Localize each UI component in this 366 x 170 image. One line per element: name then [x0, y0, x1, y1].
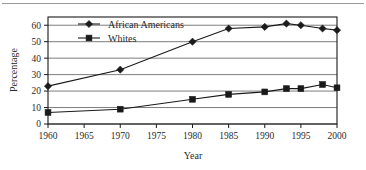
x-tick-label-1995: 1995: [291, 131, 310, 141]
series-line-1: [48, 24, 337, 87]
data-point-1-1990: [261, 23, 268, 30]
chart-figure: 196019651970197519801985199019952000 010…: [0, 0, 366, 170]
data-point-2-1998: [320, 82, 326, 88]
data-point-1-1993: [283, 20, 290, 27]
data-point-1-1995: [297, 22, 304, 29]
y-tick-label-0: 0: [36, 119, 41, 129]
legend-marker-diamond: [85, 20, 92, 27]
data-point-1-1985: [225, 25, 232, 32]
data-point-2-1985: [226, 91, 232, 97]
x-tick-label-1975: 1975: [147, 131, 166, 141]
legend-marker-square: [86, 35, 92, 41]
data-point-1-1998: [319, 25, 326, 32]
data-point-2-1980: [190, 96, 196, 102]
x-axis-tick-group: [48, 124, 337, 128]
x-tick-label-1960: 1960: [39, 131, 58, 141]
y-tick-label-30: 30: [32, 70, 42, 80]
y-tick-label-20: 20: [32, 86, 42, 96]
data-point-2-2000: [334, 85, 340, 91]
y-tick-label-40: 40: [32, 54, 42, 64]
data-point-2-1990: [262, 89, 268, 95]
data-point-1-2000: [333, 27, 340, 34]
y-tick-label-50: 50: [32, 37, 42, 47]
x-axis-tick-labels: 196019651970197519801985199019952000: [39, 131, 347, 141]
y-tick-label-10: 10: [32, 103, 42, 113]
y-axis-title: Percentage: [8, 48, 19, 92]
x-axis-title: Year: [184, 150, 203, 161]
data-point-1-1970: [117, 66, 124, 73]
x-tick-label-1985: 1985: [219, 131, 238, 141]
data-point-2-1995: [298, 86, 304, 92]
x-tick-label-1970: 1970: [111, 131, 130, 141]
x-tick-label-2000: 2000: [328, 131, 347, 141]
legend-label-2: Whites: [108, 33, 136, 44]
legend-label-1: African Americans: [108, 19, 184, 30]
y-tick-label-60: 60: [32, 21, 42, 31]
chart-legend: African AmericansWhites: [78, 19, 184, 44]
x-tick-label-1990: 1990: [255, 131, 274, 141]
series-2: [45, 82, 340, 116]
x-tick-label-1980: 1980: [183, 131, 202, 141]
y-axis-tick-labels: 0102030405060: [32, 21, 42, 130]
data-point-2-1993: [284, 86, 290, 92]
data-point-2-1960: [45, 110, 51, 116]
y-axis-tick-group: [44, 25, 48, 124]
data-point-1-1980: [189, 38, 196, 45]
data-point-1-1960: [44, 83, 51, 90]
line-chart-canvas: 196019651970197519801985199019952000 010…: [0, 0, 366, 170]
series-1: [44, 20, 340, 90]
data-point-2-1970: [117, 106, 123, 112]
data-series-group: [44, 20, 340, 115]
legend-item-1: African Americans: [78, 19, 184, 30]
x-tick-label-1965: 1965: [75, 131, 94, 141]
